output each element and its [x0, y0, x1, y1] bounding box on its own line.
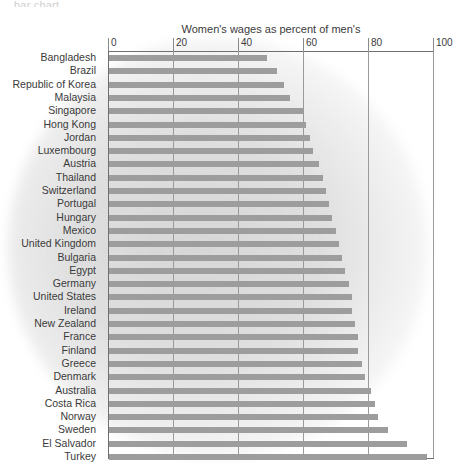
bar [109, 427, 388, 433]
axis-top-line [108, 51, 434, 52]
category-label: Brazil [70, 65, 96, 76]
category-label: Singapore [48, 105, 96, 116]
category-label: Australia [55, 385, 96, 396]
category-label: Hong Kong [43, 119, 96, 130]
category-label: Austria [63, 158, 96, 169]
category-label: Portugal [57, 198, 96, 209]
x-tick-label-60: 60 [306, 37, 317, 48]
category-label: Bulgaria [57, 252, 96, 263]
category-label: United States [33, 291, 96, 302]
bar [109, 441, 407, 447]
bar [109, 414, 378, 420]
bar [109, 188, 326, 194]
bar [109, 148, 313, 154]
category-label: Egypt [69, 265, 96, 276]
category-label: El Salvador [42, 438, 96, 449]
x-tick-mark-20 [173, 38, 174, 51]
bar [109, 82, 284, 88]
x-tick-label-80: 80 [371, 37, 382, 48]
bar [109, 255, 342, 261]
x-tick-label-40: 40 [241, 37, 252, 48]
bar [109, 95, 290, 101]
category-label: Mexico [63, 225, 96, 236]
bar [109, 454, 427, 460]
bar [109, 321, 355, 327]
category-label: New Zealand [34, 318, 96, 329]
x-tick-mark-60 [303, 38, 304, 51]
category-label: Switzerland [42, 185, 96, 196]
category-label: Norway [60, 411, 96, 422]
x-tick-label-0: 0 [111, 37, 117, 48]
bar [109, 68, 277, 74]
category-label: Costa Rica [45, 398, 96, 409]
category-label: Malaysia [55, 92, 96, 103]
bar [109, 228, 336, 234]
bar [109, 374, 365, 380]
bar [109, 308, 352, 314]
bar [109, 55, 267, 61]
bar [109, 361, 362, 367]
bar [109, 201, 329, 207]
x-tick-mark-0 [108, 38, 109, 51]
category-label: Finland [62, 345, 96, 356]
bar [109, 108, 303, 114]
category-label: Denmark [53, 371, 96, 382]
category-label: Republic of Korea [13, 79, 96, 90]
bar [109, 161, 319, 167]
horizontal-bar-chart: Women's wages as percent of men's 020406… [0, 0, 468, 472]
category-label: Greece [62, 358, 96, 369]
bar [109, 135, 310, 141]
x-tick-mark-80 [368, 38, 369, 51]
x-tick-mark-100 [433, 38, 434, 51]
chart-title: Women's wages as percent of men's [108, 23, 434, 35]
category-label: France [63, 331, 96, 342]
category-label: Thailand [56, 172, 96, 183]
bar [109, 268, 345, 274]
category-label: Germany [53, 278, 96, 289]
x-tick-label-100: 100 [436, 37, 453, 48]
category-label: Sweden [58, 424, 96, 435]
category-label: Bangladesh [41, 52, 96, 63]
bar [109, 281, 349, 287]
bar [109, 334, 358, 340]
category-label: Ireland [64, 305, 96, 316]
gridline-80 [368, 51, 369, 458]
bar [109, 122, 306, 128]
bar [109, 241, 339, 247]
category-label: United Kingdom [21, 238, 96, 249]
bar [109, 401, 375, 407]
category-label: Hungary [56, 212, 96, 223]
x-tick-mark-40 [238, 38, 239, 51]
bar [109, 175, 323, 181]
gridline-100 [433, 51, 434, 458]
bar [109, 215, 332, 221]
bar [109, 294, 352, 300]
bar [109, 348, 358, 354]
category-label: Turkey [64, 451, 96, 462]
bar [109, 388, 371, 394]
category-label: Jordan [64, 132, 96, 143]
category-label: Luxembourg [38, 145, 96, 156]
x-tick-label-20: 20 [176, 37, 187, 48]
